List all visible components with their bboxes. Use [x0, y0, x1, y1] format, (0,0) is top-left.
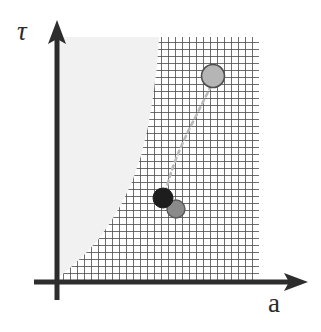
marker-lower-dark [153, 188, 173, 208]
y-axis-label-tau: τ [17, 18, 27, 45]
plot-svg [0, 0, 321, 332]
marker-upper-light [202, 65, 225, 88]
figure-canvas: τ a [0, 0, 321, 332]
x-axis-label-a: a [268, 290, 280, 317]
